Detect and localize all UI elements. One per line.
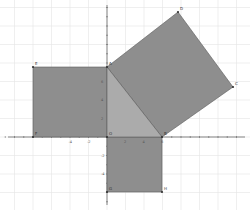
svg-text:H: H (164, 186, 167, 191)
svg-text:D: D (180, 6, 183, 11)
svg-text:B: B (164, 131, 167, 136)
svg-text:G: G (109, 186, 112, 191)
y-tick-label: 2 (101, 117, 103, 121)
vertex-point[interactable]: C (232, 81, 238, 88)
square-on-leg-a (33, 67, 107, 137)
svg-text:C: C (235, 81, 238, 86)
geometry-diagram: -4-2246642-2-4 OABCDEFGH (0, 0, 250, 210)
svg-text:E: E (35, 61, 38, 66)
x-tick-label: 6 (161, 140, 163, 144)
square-on-leg-b (107, 137, 162, 192)
x-tick-label: -4 (69, 140, 73, 144)
y-tick-label: 6 (101, 80, 103, 84)
svg-text:O: O (109, 131, 112, 136)
vertex-point[interactable]: D (177, 6, 183, 13)
x-tick-label: 2 (124, 140, 126, 144)
x-tick-label: -2 (87, 140, 91, 144)
svg-text:A: A (109, 61, 112, 66)
y-tick-label: -2 (101, 154, 105, 158)
